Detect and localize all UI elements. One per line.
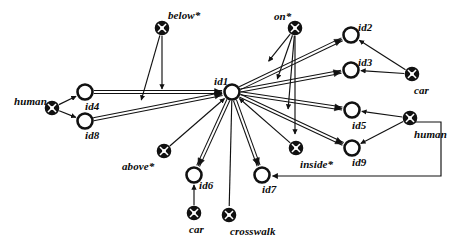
node-label-id3: id3 — [358, 57, 372, 68]
node-above[interactable] — [158, 145, 171, 158]
edge-id1-to-id9 — [239, 94, 343, 145]
node-label-id7: id7 — [262, 184, 276, 195]
edge-carR-to-id3 — [361, 71, 404, 74]
node-label-id1: id1 — [214, 76, 228, 87]
node-label-above: above* — [122, 161, 154, 172]
node-label-carB: car — [189, 224, 204, 235]
node-label-id4: id4 — [85, 101, 99, 112]
node-below[interactable] — [156, 22, 169, 35]
node-carR[interactable] — [406, 68, 419, 81]
node-id7[interactable] — [255, 168, 270, 183]
node-id3[interactable] — [344, 63, 359, 78]
node-carB[interactable] — [188, 207, 201, 220]
node-label-id2: id2 — [358, 22, 372, 33]
edge-on-to-fan4 — [277, 35, 292, 79]
edge-layer — [59, 34, 441, 206]
node-id2[interactable] — [344, 28, 359, 43]
node-label-below: below* — [168, 10, 200, 21]
node-label-id9: id9 — [352, 157, 366, 168]
node-label-id5: id5 — [352, 120, 366, 131]
graph-svg — [0, 0, 466, 244]
node-id8[interactable] — [78, 114, 93, 129]
node-label-id6: id6 — [199, 180, 213, 191]
node-crosswalk[interactable] — [223, 209, 236, 222]
node-label-humanR: human — [414, 129, 447, 140]
edge-humanL-to-id8 — [59, 111, 76, 118]
node-label-carR: car — [414, 85, 429, 96]
edge-id1-to-id7 — [233, 100, 260, 167]
node-label-inside: inside* — [300, 159, 333, 170]
edge-humanR-to-id9 — [361, 122, 403, 144]
node-id5[interactable] — [345, 103, 360, 118]
node-on[interactable] — [289, 22, 302, 35]
edge-id1-to-crosswalk — [229, 101, 232, 206]
node-humanR[interactable] — [404, 112, 417, 125]
node-id4[interactable] — [78, 85, 93, 100]
edge-on-to-fan3 — [269, 34, 291, 61]
node-label-on: on* — [274, 11, 291, 22]
node-label-id8: id8 — [85, 130, 99, 141]
edge-id4-to-id1 — [94, 89, 222, 96]
edge-humanR-to-id5 — [362, 111, 403, 117]
node-label-humanL: human — [14, 96, 47, 107]
node-humanL[interactable] — [46, 102, 59, 115]
diagram-canvas: id1id2id3id4id5id6id7id8id9below*on*abov… — [0, 0, 466, 244]
edge-humanL-to-id4 — [59, 96, 76, 104]
node-label-crosswalk: crosswalk — [230, 226, 276, 237]
node-inside[interactable] — [290, 142, 303, 155]
edge-id1-to-id6 — [197, 99, 230, 166]
node-id9[interactable] — [345, 141, 360, 156]
